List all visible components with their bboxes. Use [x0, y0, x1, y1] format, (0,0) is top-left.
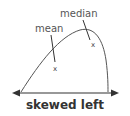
left-arrow-icon — [12, 90, 20, 97]
mean-mark: x — [53, 65, 57, 73]
skewed-left-distribution-diagram: x mean x median skewed left — [0, 0, 130, 116]
median-label: median — [60, 8, 98, 19]
mean-pointer-line — [51, 35, 55, 62]
caption: skewed left — [26, 98, 104, 112]
distribution-curve — [21, 29, 108, 92]
median-mark: x — [91, 41, 95, 49]
mean-label: mean — [35, 23, 63, 34]
right-arrow-icon — [111, 90, 119, 97]
